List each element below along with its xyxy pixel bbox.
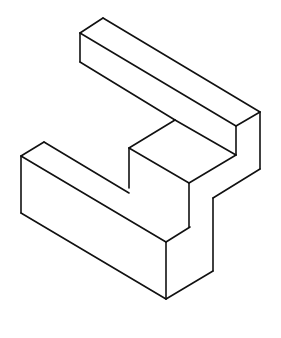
edge-line [21, 156, 166, 242]
edge-line [189, 155, 236, 183]
isometric-block-drawing [0, 0, 281, 338]
edge-line [21, 142, 44, 156]
drawing-edges [21, 18, 260, 299]
edge-line [213, 169, 260, 198]
edge-line [80, 33, 236, 126]
edge-line [80, 18, 103, 33]
edge-line [129, 120, 175, 148]
edge-line [44, 142, 129, 193]
edge-line [166, 227, 190, 242]
edge-line [236, 112, 260, 126]
edge-line [21, 213, 166, 299]
edge-line [175, 120, 236, 155]
edge-line [103, 18, 260, 112]
edge-line [129, 148, 189, 183]
edge-line [80, 62, 175, 120]
edge-line [166, 271, 213, 299]
